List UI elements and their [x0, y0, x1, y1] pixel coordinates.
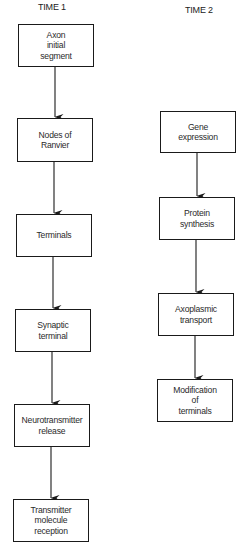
- node-label: Axon initial segment: [40, 30, 72, 62]
- node-transmitter-molecule-reception: Transmitter molecule reception: [13, 499, 89, 542]
- node-axon-initial-segment: Axon initial segment: [18, 24, 94, 67]
- node-label: Protein synthesis: [180, 208, 214, 229]
- node-axoplasmic-transport: Axoplasmic transport: [158, 293, 234, 336]
- node-protein-synthesis: Protein synthesis: [159, 197, 235, 240]
- node-gene-expression: Gene expression: [160, 111, 236, 153]
- column-title-time-1: TIME 1: [38, 2, 66, 12]
- node-label: Terminals: [37, 230, 72, 241]
- column-title-time-2: TIME 2: [185, 5, 213, 15]
- node-modification-of-terminals: Modification of terminals: [157, 379, 233, 422]
- node-label: Gene expression: [178, 122, 218, 143]
- node-label: Modification of terminals: [173, 385, 216, 417]
- flow-arrows: [0, 0, 239, 542]
- node-label: Transmitter molecule reception: [31, 505, 72, 537]
- node-synaptic-terminal: Synaptic terminal: [15, 309, 91, 352]
- node-terminals: Terminals: [16, 214, 92, 257]
- node-neurotransmitter-release: Neurotransmitter release: [14, 404, 90, 447]
- node-nodes-of-ranvier: Nodes of Ranvier: [17, 118, 93, 162]
- node-label: Nodes of Ranvier: [39, 130, 72, 151]
- node-label: Neurotransmitter release: [22, 415, 83, 436]
- node-label: Axoplasmic transport: [175, 304, 217, 325]
- node-label: Synaptic terminal: [37, 320, 68, 341]
